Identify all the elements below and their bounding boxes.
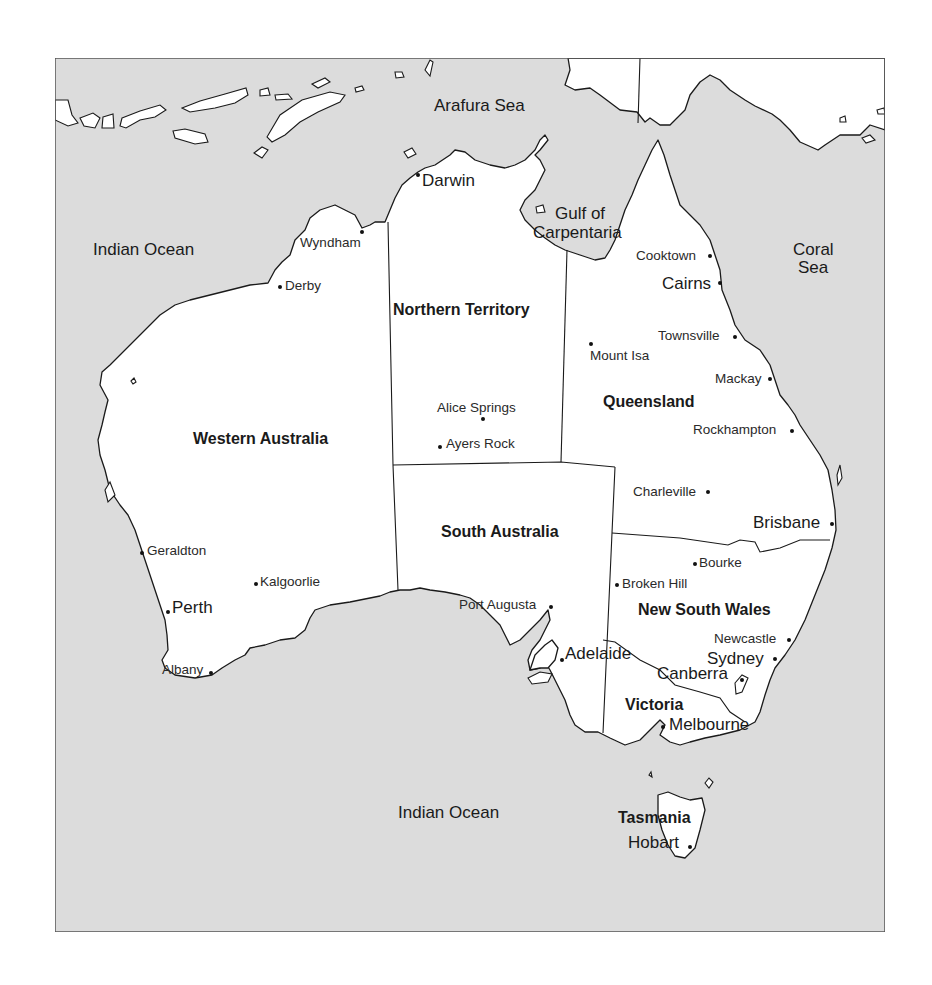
- state-label-south-australia: South Australia: [441, 524, 559, 540]
- city-label-derby: Derby: [285, 279, 321, 293]
- city-marker-icon: [416, 173, 420, 177]
- city-marker-icon: [661, 725, 665, 729]
- sea-label-arafura-sea: Arafura Sea: [434, 97, 525, 114]
- city-label-port-augusta: Port Augusta: [459, 598, 536, 612]
- sea-label-indian-ocean: Indian Ocean: [398, 804, 499, 821]
- sea-label-coral: Coral: [793, 241, 834, 258]
- city-marker-icon: [768, 377, 772, 381]
- city-label-geraldton: Geraldton: [147, 544, 206, 558]
- city-marker-icon: [787, 638, 791, 642]
- city-label-ayers-rock: Ayers Rock: [446, 437, 515, 451]
- state-label-new-south-wales: New South Wales: [638, 602, 771, 618]
- city-marker-icon: [830, 522, 834, 526]
- city-marker-icon: [693, 562, 697, 566]
- city-marker-icon: [254, 582, 258, 586]
- city-marker-icon: [140, 551, 144, 555]
- city-marker-icon: [688, 845, 692, 849]
- city-marker-icon: [560, 658, 564, 662]
- city-label-darwin: Darwin: [422, 172, 475, 189]
- city-marker-icon: [615, 583, 619, 587]
- city-label-mount-isa: Mount Isa: [590, 349, 649, 363]
- sea-label-sea: Sea: [798, 259, 828, 276]
- city-label-kalgoorlie: Kalgoorlie: [260, 575, 320, 589]
- state-label-western-australia: Western Australia: [193, 431, 328, 447]
- state-label-northern-territory: Northern Territory: [393, 302, 530, 318]
- city-label-hobart: Hobart: [628, 834, 679, 851]
- city-label-alice-springs: Alice Springs: [437, 401, 516, 415]
- city-label-cooktown: Cooktown: [636, 249, 696, 263]
- city-label-townsville: Townsville: [658, 329, 720, 343]
- city-label-melbourne: Melbourne: [669, 716, 749, 733]
- city-label-charleville: Charleville: [633, 485, 696, 499]
- city-label-bourke: Bourke: [699, 556, 742, 570]
- city-marker-icon: [209, 671, 213, 675]
- city-marker-icon: [166, 610, 170, 614]
- city-marker-icon: [481, 417, 485, 421]
- city-marker-icon: [773, 657, 777, 661]
- city-label-albany: Albany: [162, 663, 203, 677]
- city-marker-icon: [706, 490, 710, 494]
- city-marker-icon: [708, 254, 712, 258]
- city-label-cairns: Cairns: [662, 275, 711, 292]
- city-label-brisbane: Brisbane: [753, 514, 820, 531]
- city-marker-icon: [438, 445, 442, 449]
- city-label-mackay: Mackay: [715, 372, 762, 386]
- state-label-queensland: Queensland: [603, 394, 695, 410]
- city-marker-icon: [740, 678, 744, 682]
- sea-label-gulf-of: Gulf of: [555, 205, 605, 222]
- state-label-victoria: Victoria: [625, 697, 683, 713]
- sea-label-indian-ocean: Indian Ocean: [93, 241, 194, 258]
- city-marker-icon: [790, 429, 794, 433]
- city-label-adelaide: Adelaide: [565, 645, 631, 662]
- state-label-tasmania: Tasmania: [618, 810, 691, 826]
- city-marker-icon: [733, 335, 737, 339]
- city-marker-icon: [589, 342, 593, 346]
- sea-label-carpentaria: Carpentaria: [533, 224, 622, 241]
- city-label-wyndham: Wyndham: [300, 236, 361, 250]
- city-label-rockhampton: Rockhampton: [693, 423, 776, 437]
- city-marker-icon: [360, 230, 364, 234]
- city-label-newcastle: Newcastle: [714, 632, 776, 646]
- city-marker-icon: [718, 281, 722, 285]
- city-label-canberra: Canberra: [657, 665, 728, 682]
- city-label-perth: Perth: [172, 599, 213, 616]
- city-label-broken-hill: Broken Hill: [622, 577, 687, 591]
- city-marker-icon: [549, 605, 553, 609]
- city-marker-icon: [278, 285, 282, 289]
